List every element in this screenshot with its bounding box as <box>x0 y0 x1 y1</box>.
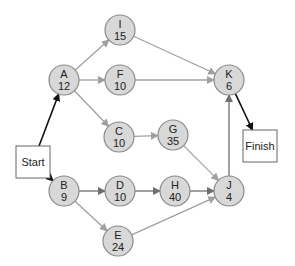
start-box: Start <box>16 146 50 178</box>
node-duration: 9 <box>61 191 67 203</box>
node-letter: C <box>115 125 123 137</box>
edge-K-to-finish <box>235 94 252 130</box>
activity-node-D: D10 <box>105 176 135 206</box>
edge-B-to-E <box>75 201 107 231</box>
node-duration: 10 <box>114 191 126 203</box>
node-letter: B <box>60 179 67 191</box>
node-duration: 12 <box>58 80 70 92</box>
edges-layer <box>39 36 252 235</box>
node-letter: H <box>171 179 179 191</box>
node-letter: A <box>60 68 68 80</box>
start-label: Start <box>21 156 44 168</box>
activity-node-B: B9 <box>49 176 79 206</box>
edge-I-to-K <box>134 36 216 73</box>
node-duration: 4 <box>226 191 232 203</box>
activity-node-C: C10 <box>104 122 134 152</box>
node-letter: G <box>169 123 178 135</box>
finish-box: Finish <box>243 130 277 162</box>
edge-C-to-G <box>134 136 158 137</box>
node-letter: J <box>226 179 232 191</box>
node-letter: E <box>114 229 121 241</box>
edge-A-to-I <box>75 40 109 70</box>
activity-node-E: E24 <box>103 226 133 256</box>
edge-A-to-C <box>74 91 108 126</box>
node-duration: 15 <box>114 30 126 42</box>
activity-node-H: H40 <box>160 176 190 206</box>
activity-node-K: K6 <box>214 65 244 95</box>
activity-node-A: A12 <box>49 65 79 95</box>
node-duration: 24 <box>112 241 124 253</box>
finish-label: Finish <box>245 140 274 152</box>
node-duration: 6 <box>226 80 232 92</box>
activity-node-G: G35 <box>158 120 188 150</box>
activity-node-F: F10 <box>105 65 135 95</box>
node-letter: D <box>116 179 124 191</box>
node-letter: K <box>225 68 233 80</box>
node-duration: 10 <box>113 137 125 149</box>
node-duration: 10 <box>114 80 126 92</box>
network-diagram: StartFinishA12B9C10D10E24F10G35H40I15J4K… <box>0 0 295 266</box>
node-letter: I <box>118 18 121 30</box>
edge-G-to-J <box>184 146 219 181</box>
activity-node-J: J4 <box>214 176 244 206</box>
node-duration: 35 <box>167 135 179 147</box>
node-duration: 40 <box>169 191 181 203</box>
node-letter: F <box>117 68 124 80</box>
activity-node-I: I15 <box>105 15 135 45</box>
edge-start-to-A <box>39 94 59 146</box>
